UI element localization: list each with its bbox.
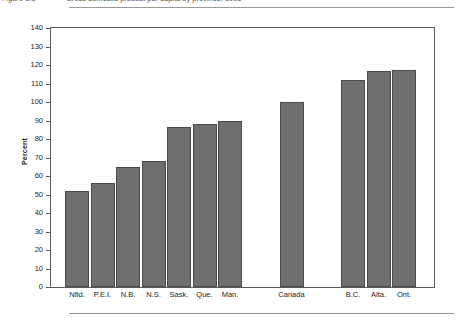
bar xyxy=(65,191,89,287)
y-axis: 0102030405060708090100110120130140 xyxy=(0,0,52,324)
y-axis-tick-label: 30 xyxy=(35,227,43,236)
y-axis-tick-label: 110 xyxy=(31,79,43,88)
horizontal-rule-bottom xyxy=(69,313,454,314)
bar xyxy=(367,71,391,287)
bar xyxy=(167,127,191,287)
y-axis-tick-label: 0 xyxy=(39,282,43,291)
y-axis-tick-mark xyxy=(46,287,51,288)
x-axis-tick-label: Canada xyxy=(266,290,318,300)
y-axis-tick-label: 120 xyxy=(30,60,43,69)
bar xyxy=(341,80,365,287)
y-axis-tick-label: 130 xyxy=(30,42,43,51)
y-axis-tick-label: 90 xyxy=(35,116,43,125)
y-axis-tick-label: 50 xyxy=(35,190,43,199)
y-axis-tick-label: 140 xyxy=(30,23,43,32)
bar xyxy=(116,167,140,287)
bar xyxy=(142,161,166,287)
bars-layer xyxy=(51,28,434,287)
x-axis: Nfld.P.E.I.N.B.N.S.Sask.Que.Man.CanadaB.… xyxy=(51,290,434,304)
x-axis-tick-label: Man. xyxy=(204,290,256,300)
x-axis-tick-label: Ont. xyxy=(378,290,430,300)
y-axis-tick-label: 70 xyxy=(35,153,43,162)
y-axis-tick-label: 80 xyxy=(35,134,43,143)
y-axis-tick-label: 20 xyxy=(35,245,43,254)
y-axis-tick-label: 40 xyxy=(35,208,43,217)
y-axis-tick-label: 100 xyxy=(30,97,43,106)
bar xyxy=(392,70,416,287)
bar xyxy=(193,124,217,287)
bar xyxy=(218,121,242,288)
bar xyxy=(91,183,115,287)
bar xyxy=(280,102,304,287)
y-axis-tick-label: 60 xyxy=(35,171,43,180)
bar-chart: Percent 01020304050607080901001101201301… xyxy=(0,0,456,324)
y-axis-tick-label: 10 xyxy=(35,264,43,273)
